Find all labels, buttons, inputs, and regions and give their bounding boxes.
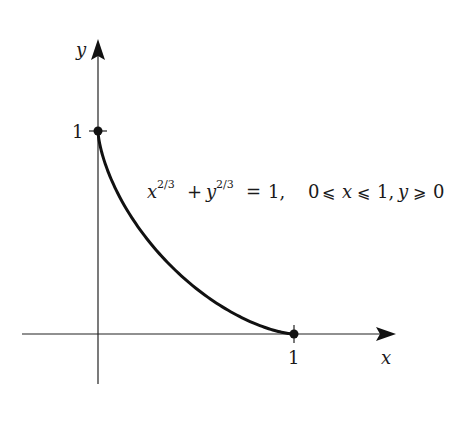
y-tick-label: 1 (72, 121, 83, 142)
cond-zero: 0 (308, 181, 319, 202)
cond-x: x (342, 181, 352, 202)
cond-geq: ⩾ (413, 183, 426, 202)
equation-annotation: x 2/3 + y 2/3 = 1, 0 ⩽ x ⩽ 1, y ⩾ 0 (147, 178, 444, 202)
eq-equals: = (246, 181, 261, 202)
eq-exp1: 2/3 (157, 178, 175, 191)
x-tick-label: 1 (288, 347, 299, 368)
eq-x: x (147, 181, 157, 202)
cond-leq-2: ⩽ (357, 183, 370, 202)
cond-leq-1: ⩽ (322, 183, 335, 202)
x-axis-label: x (381, 347, 391, 368)
point-y-intercept (94, 127, 103, 136)
astroid-curve (98, 131, 294, 334)
graph-canvas: y x 1 1 x 2/3 + y 2/3 = 1, 0 ⩽ x ⩽ 1, y … (0, 0, 473, 422)
cond-y: y (397, 181, 409, 202)
eq-plus: + (187, 181, 202, 202)
eq-exp2: 2/3 (216, 178, 234, 191)
eq-rhs: 1, (268, 181, 285, 202)
cond-zero-2: 0 (433, 181, 444, 202)
cond-one: 1, (377, 181, 394, 202)
point-x-intercept (290, 330, 299, 339)
y-axis-label: y (75, 39, 87, 60)
